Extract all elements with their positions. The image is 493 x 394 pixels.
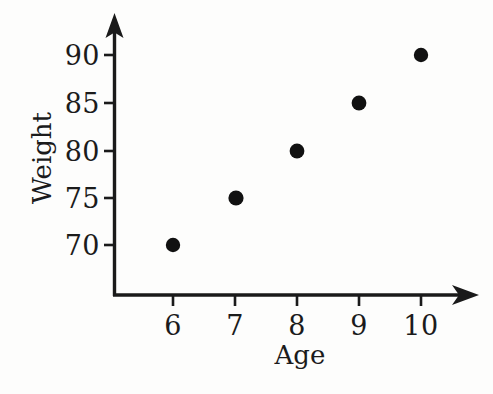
data-point: [352, 96, 367, 111]
scatter-plot-figure: 90 85 80 75 70 6 7 8 9 10 Weight Age: [0, 0, 493, 394]
x-tick-label-7: 7: [226, 312, 244, 339]
x-tick-label-9: 9: [350, 312, 368, 339]
y-tick-label-70: 70: [36, 232, 100, 259]
x-tick-label-8: 8: [288, 312, 306, 339]
y-axis-title: Weight: [29, 112, 55, 204]
data-point: [414, 48, 428, 62]
x-tick-label-6: 6: [164, 312, 182, 339]
x-axis-title: Age: [275, 342, 326, 368]
y-tick-label-90: 90: [36, 42, 100, 69]
data-point: [228, 190, 243, 205]
x-tick-label-10: 10: [403, 312, 438, 339]
data-point: [290, 144, 305, 159]
data-point: [166, 238, 180, 252]
